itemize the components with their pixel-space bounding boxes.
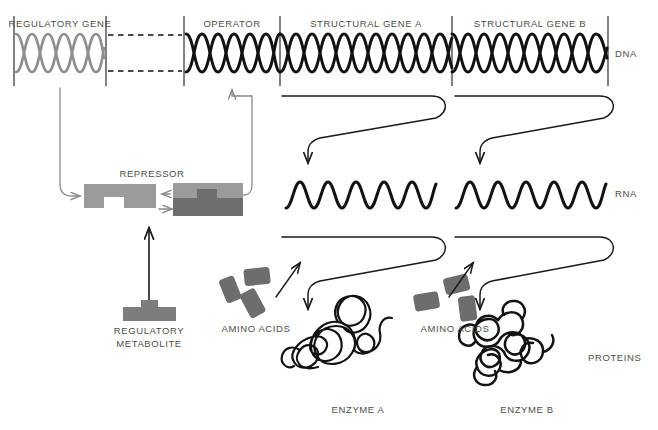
label-structural-gene-b: STRUCTURAL GENE B bbox=[474, 18, 586, 29]
amino-acid-block bbox=[239, 287, 267, 319]
amino-acids-a bbox=[218, 267, 271, 319]
amino-acid-block bbox=[458, 295, 478, 322]
helix-regulatory-gene bbox=[16, 34, 104, 72]
amino-acid-block bbox=[413, 291, 441, 312]
dna-spacer-dashed bbox=[108, 35, 182, 71]
helix-structural-gene-a bbox=[280, 34, 452, 72]
translation-arrows bbox=[282, 237, 613, 309]
arrow-transcription-a bbox=[282, 96, 445, 163]
repressor-inactive bbox=[84, 184, 156, 208]
repressor-active bbox=[173, 183, 243, 216]
label-structural-gene-a: STRUCTURAL GENE A bbox=[310, 18, 422, 29]
label-repressor: REPRESSOR bbox=[119, 168, 184, 179]
label-enzyme-b: ENZYME B bbox=[500, 404, 553, 415]
arrow-amino-acids-a-to-enzyme bbox=[276, 263, 300, 297]
transcription-arrows bbox=[282, 96, 613, 163]
label-regulatory-metabolite-line1: REGULATORY bbox=[114, 325, 184, 336]
rna-row bbox=[286, 182, 606, 208]
label-amino-acids-b: AMINO ACIDS bbox=[421, 323, 490, 334]
helix-operator bbox=[186, 34, 280, 72]
amino-acid-block bbox=[218, 275, 242, 304]
label-proteins-row: PROTEINS bbox=[588, 352, 641, 363]
diagram-artwork bbox=[0, 0, 658, 430]
label-enzyme-a: ENZYME A bbox=[332, 404, 385, 415]
enzyme-a-structure bbox=[282, 296, 392, 368]
label-amino-acids-a: AMINO ACIDS bbox=[222, 323, 291, 334]
label-regulatory-gene: REGULATORY GENE bbox=[9, 18, 112, 29]
arrow-repressor-to-operator bbox=[232, 90, 252, 195]
label-rna-row: RNA bbox=[615, 188, 637, 199]
amino-acid-feed-arrows bbox=[276, 263, 473, 297]
amino-acid-block bbox=[442, 273, 470, 296]
arrow-translation-b bbox=[455, 237, 613, 309]
helix-structural-gene-b bbox=[452, 34, 607, 72]
label-dna-row: DNA bbox=[615, 48, 637, 59]
amino-acids-b bbox=[413, 273, 478, 322]
rna-strand-b bbox=[456, 182, 606, 208]
regulatory-metabolite-shape bbox=[123, 300, 176, 321]
rna-strand-a bbox=[286, 182, 436, 208]
label-operator: OPERATOR bbox=[203, 18, 260, 29]
diagram-canvas: REGULATORY GENE OPERATOR STRUCTURAL GENE… bbox=[0, 0, 658, 430]
arrow-transcription-b bbox=[455, 96, 613, 163]
label-regulatory-metabolite-line2: METABOLITE bbox=[116, 338, 181, 349]
amino-acid-block bbox=[243, 267, 271, 287]
arrow-regulatory-gene-to-repressor bbox=[60, 88, 80, 196]
